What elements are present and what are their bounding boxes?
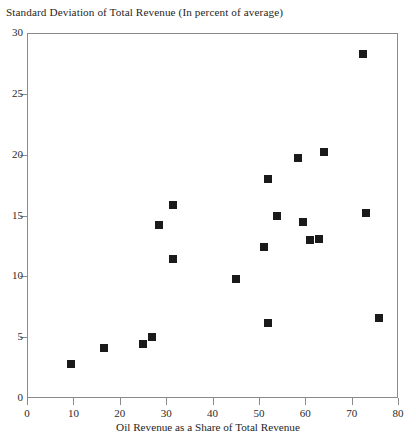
x-tick-label: 60	[290, 407, 320, 419]
data-point	[155, 221, 163, 229]
data-point	[299, 218, 307, 226]
data-point	[273, 212, 281, 220]
data-point	[100, 344, 108, 352]
data-point	[67, 360, 75, 368]
y-tick-label: 10	[0, 269, 23, 281]
x-tick-label: 10	[58, 407, 88, 419]
x-tick-label: 40	[198, 407, 228, 419]
x-tick-label: 20	[105, 407, 135, 419]
x-tick-mark	[305, 398, 306, 405]
x-tick-mark	[27, 398, 28, 405]
data-point	[306, 236, 314, 244]
y-tick-label: 20	[0, 148, 23, 160]
data-point	[139, 340, 147, 348]
data-point	[169, 255, 177, 263]
x-tick-mark	[398, 398, 399, 405]
x-tick-mark	[73, 398, 74, 405]
x-tick-label: 30	[151, 407, 181, 419]
data-point	[375, 314, 383, 322]
chart-title: Standard Deviation of Total Revenue (In …	[6, 6, 283, 18]
data-point	[294, 154, 302, 162]
x-tick-mark	[166, 398, 167, 405]
data-point	[315, 235, 323, 243]
data-point	[264, 175, 272, 183]
y-tick-label: 5	[0, 330, 23, 342]
y-tick-label: 30	[0, 26, 23, 38]
x-tick-label: 0	[12, 407, 42, 419]
y-tick-label: 0	[0, 391, 23, 403]
scatter-chart: Standard Deviation of Total Revenue (In …	[0, 0, 416, 436]
x-tick-mark	[352, 398, 353, 405]
data-point	[232, 275, 240, 283]
x-tick-mark	[120, 398, 121, 405]
data-point	[359, 50, 367, 58]
data-point	[264, 319, 272, 327]
data-point	[148, 333, 156, 341]
data-point	[320, 148, 328, 156]
y-tick-label: 15	[0, 209, 23, 221]
x-tick-mark	[259, 398, 260, 405]
data-point	[260, 243, 268, 251]
x-tick-label: 70	[337, 407, 367, 419]
x-tick-label: 50	[244, 407, 274, 419]
plot-area	[27, 33, 398, 398]
x-axis-title: Oil Revenue as a Share of Total Revenue	[0, 421, 416, 433]
y-tick-label: 25	[0, 87, 23, 99]
data-point	[362, 209, 370, 217]
data-point	[169, 201, 177, 209]
x-tick-mark	[213, 398, 214, 405]
x-tick-label: 80	[383, 407, 413, 419]
